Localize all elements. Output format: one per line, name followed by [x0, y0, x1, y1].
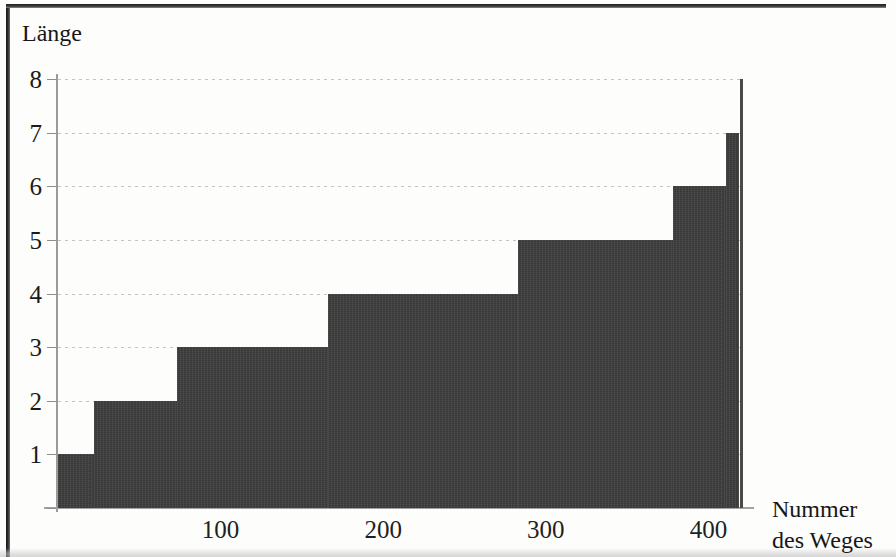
y-tick-3	[47, 347, 56, 348]
step-block-2	[94, 401, 177, 508]
x-tick-label-200: 200	[364, 516, 402, 544]
y-tick-label-6: 6	[2, 174, 42, 199]
y-tick-2	[47, 401, 56, 402]
y-tick-5	[47, 240, 56, 241]
step-chart: Länge Nummer des Weges 12345678 10020030…	[0, 0, 896, 557]
y-tick-6	[47, 186, 56, 187]
y-tick-label-2: 2	[2, 388, 42, 413]
y-tick-label-1: 1	[2, 442, 42, 467]
gridline-y-7	[58, 133, 741, 134]
gridline-y-8	[58, 79, 741, 80]
step-block-4	[328, 294, 518, 509]
y-tick-label-8: 8	[2, 67, 42, 92]
gridline-y-6	[58, 186, 741, 187]
y-tick-label-7: 7	[2, 120, 42, 145]
step-block-6	[673, 186, 727, 508]
step-block-7	[726, 133, 739, 508]
y-tick-label-3: 3	[2, 335, 42, 360]
plot-area: 12345678	[58, 79, 741, 508]
y-tick-4	[47, 294, 56, 295]
y-axis-title: Länge	[22, 20, 82, 47]
scanned-figure-page: Länge Nummer des Weges 12345678 10020030…	[0, 0, 896, 557]
y-tick-0	[47, 508, 56, 509]
step-block-3	[177, 347, 328, 508]
y-tick-1	[47, 454, 56, 455]
x-tick-label-100: 100	[202, 516, 240, 544]
final-step-spike	[740, 79, 743, 508]
x-tick-label-300: 300	[527, 516, 565, 544]
y-tick-label-5: 5	[2, 227, 42, 252]
step-block-1	[58, 454, 94, 508]
x-axis-title-line-2: des Weges	[772, 525, 873, 556]
step-block-5	[518, 240, 672, 508]
y-tick-7	[47, 133, 56, 134]
x-tick-label-400: 400	[690, 516, 728, 544]
y-tick-label-4: 4	[2, 281, 42, 306]
y-tick-8	[47, 79, 56, 80]
x-axis-title: Nummer des Weges	[772, 494, 873, 555]
x-axis-title-line-1: Nummer	[772, 494, 873, 525]
